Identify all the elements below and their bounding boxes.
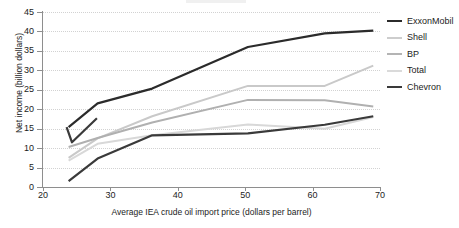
legend-item-shell[interactable]: Shell: [387, 30, 459, 47]
legend-swatch-total: [387, 70, 402, 72]
legend-label-shell: Shell: [407, 33, 427, 42]
legend-swatch-bp: [387, 53, 402, 55]
series-line-exxonmobil: [69, 31, 374, 127]
legend-label-exxonmobil: ExxonMobil: [407, 17, 454, 26]
legend-swatch-shell: [387, 37, 402, 39]
legend-swatch-exxonmobil: [387, 20, 402, 22]
legend-item-bp[interactable]: BP: [387, 46, 459, 63]
legend-item-total[interactable]: Total: [387, 63, 459, 80]
series-line-chevron: [69, 116, 374, 181]
legend-label-bp: BP: [407, 50, 419, 59]
legend-item-exxonmobil[interactable]: ExxonMobil: [387, 13, 459, 30]
legend-swatch-chevron: [387, 86, 402, 88]
legend: ExxonMobilShellBPTotalChevron: [387, 13, 459, 96]
series-line-shell: [69, 66, 374, 158]
legend-item-chevron[interactable]: Chevron: [387, 79, 459, 96]
legend-label-total: Total: [407, 66, 426, 75]
line-chart: 051015202530354045203040506070 Net incom…: [0, 0, 459, 228]
legend-label-chevron: Chevron: [407, 83, 441, 92]
